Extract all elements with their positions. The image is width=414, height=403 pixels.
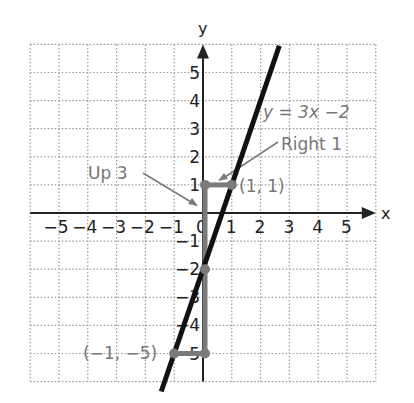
data-point (200, 349, 210, 359)
x-tick-label: 2 (255, 217, 266, 237)
y-tick-label: 3 (189, 119, 200, 139)
x-tick-label: −3 (101, 217, 126, 237)
y-tick-label: 2 (189, 147, 200, 167)
y-tick-label: 4 (189, 91, 200, 111)
y-axis-arrow-icon (197, 44, 209, 58)
y-tick-label: −1 (175, 231, 200, 251)
x-tick-label: 3 (283, 217, 294, 237)
right-1-label: Right 1 (281, 134, 342, 154)
coordinate-plane: −5−4−3−2−101234554321−1−2−3−4−5 y x y = … (0, 0, 414, 403)
data-point (200, 180, 210, 190)
y-tick-label: −2 (175, 259, 200, 279)
data-point (200, 264, 210, 274)
data-point (227, 180, 237, 190)
point-1-1-label: (1, 1) (239, 176, 285, 196)
right-1-arrow-icon (218, 173, 228, 181)
x-tick-label: 4 (312, 217, 323, 237)
x-tick-label: 1 (226, 217, 237, 237)
point-neg1-neg5-label: (−1, −5) (83, 343, 157, 363)
equation-text: y = 3x −2 (262, 102, 349, 122)
up-3-arrow-icon (188, 198, 198, 206)
x-tick-label: −2 (130, 217, 155, 237)
x-tick-label: 5 (341, 217, 352, 237)
x-tick-label: −4 (72, 217, 97, 237)
equation-label: y = 3x −2 (262, 102, 349, 122)
y-axis-label: y (198, 19, 207, 38)
y-tick-label: 1 (189, 175, 200, 195)
x-axis-arrow-icon (362, 207, 376, 219)
x-axis-label: x (381, 204, 390, 223)
up-3-pointer (143, 173, 196, 205)
y-tick-label: 5 (189, 63, 200, 83)
data-point (169, 349, 179, 359)
x-tick-label: −5 (43, 217, 68, 237)
right-1-pointer (222, 142, 278, 179)
up-3-label: Up 3 (88, 163, 127, 183)
